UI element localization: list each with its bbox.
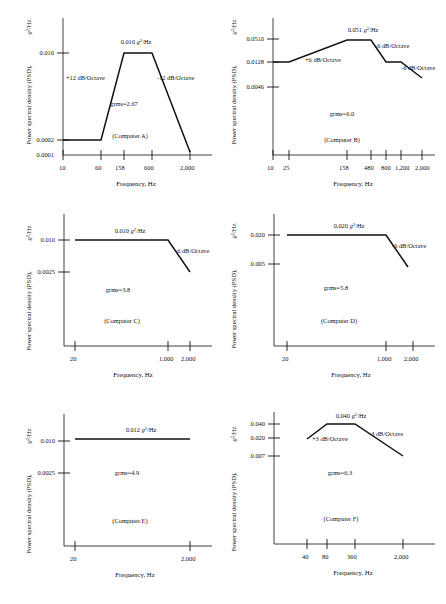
grms-label-e: grms=4.9 (115, 469, 139, 476)
x-ticks-a: 10 60 158 600 2,000 (59, 150, 194, 171)
svg-text:Power spectral density (PSD),: Power spectral density (PSD), (25, 474, 33, 554)
svg-text:60: 60 (95, 164, 101, 171)
svg-text:20: 20 (282, 355, 288, 362)
svg-text:g2/Hz: g2/Hz (230, 426, 237, 441)
svg-text:1,000: 1,000 (159, 355, 173, 362)
svg-text:0.020: 0.020 (251, 434, 265, 441)
level-label-f: 0.040 g2/Hz (336, 412, 367, 419)
svg-text:25: 25 (283, 164, 289, 171)
y-ticks-d: 0.020 0.005 (251, 231, 280, 267)
y-axis-title-b: Power spectral density (PSD), g2/Hz (230, 19, 238, 144)
y-axis-title-e: Power spectral density (PSD), g2/Hz (25, 428, 33, 553)
svg-text:158: 158 (339, 164, 349, 171)
svg-text:0.010: 0.010 (41, 236, 55, 243)
svg-text:0.0002: 0.0002 (36, 136, 54, 143)
grms-label-c: grms=3.8 (106, 286, 130, 293)
svg-text:0.005: 0.005 (251, 260, 265, 267)
svg-text:0.0128: 0.0128 (246, 58, 264, 65)
svg-text:2,000: 2,000 (181, 555, 195, 562)
svg-text:1,000: 1,000 (377, 355, 391, 362)
y-axis-title-d: Power spectral density (PSD), g2/Hz (230, 223, 238, 348)
svg-text:0.0025: 0.0025 (37, 469, 55, 476)
svg-text:10: 10 (59, 164, 65, 171)
psd-curve-d (287, 235, 408, 267)
svg-text:2,000: 2,000 (180, 164, 194, 171)
svg-text:Power spectral density (PSD),: Power spectral density (PSD), (230, 472, 238, 552)
x-ticks-f: 40 80 360 2,000 (302, 539, 408, 560)
svg-text:g2/Hz: g2/Hz (230, 223, 237, 238)
grms-label-b: grms=6.0 (330, 110, 354, 117)
y-axis-title-a: Power spectral density (PSD), g2/Hz (25, 19, 33, 144)
svg-text:480: 480 (364, 164, 374, 171)
level-label-b: 0.051 g2/Hz (348, 26, 379, 33)
grms-label-f: grms=6.3 (328, 469, 352, 476)
slope-fall-label-a: -12 dB/Octave (157, 74, 195, 81)
svg-text:10: 10 (267, 164, 273, 171)
figure-grid: Power spectral density (PSD), g2/Hz 0.01… (0, 0, 446, 604)
svg-text:0.020: 0.020 (251, 231, 265, 238)
svg-text:20: 20 (70, 355, 76, 362)
svg-text:Power spectral density (PSD),: Power spectral density (PSD), (230, 65, 238, 145)
svg-text:Power spectral density (PSD),: Power spectral density (PSD), (25, 271, 33, 351)
y-ticks-f: 0.040 0.020 0.007 (251, 420, 280, 459)
x-ticks-e: 20 2,000 (70, 541, 195, 562)
y-ticks-b: 0.0510 0.0128 0.0046 (246, 35, 279, 90)
svg-text:360: 360 (347, 553, 357, 560)
svg-text:158: 158 (115, 164, 125, 171)
psd-curve-c (75, 240, 190, 272)
svg-text:0.0510: 0.0510 (246, 35, 264, 42)
slope-rise-label-a: +12 dB/Octave (66, 74, 105, 81)
svg-text:Power spectral density (PSD),: Power spectral density (PSD), (25, 65, 33, 145)
x-axis-title-a: Frequency, Hz (116, 180, 156, 187)
svg-text:Power spectral density (PSD),: Power spectral density (PSD), (230, 269, 238, 349)
level-label-d: 0.020 g2/Hz (334, 222, 365, 229)
caption-e: (Computer E) (112, 517, 147, 525)
svg-text:0.0046: 0.0046 (246, 83, 264, 90)
level-label-c: 0.010 g2/Hz (115, 227, 146, 234)
svg-text:2,000: 2,000 (181, 355, 195, 362)
y-ticks-c: 0.010 0.0025 (37, 236, 70, 275)
chart-panel-computer-a: Power spectral density (PSD), g2/Hz 0.01… (0, 0, 223, 201)
chart-panel-computer-f: Power spectral density (PSD), g2/Hz 0.04… (223, 402, 446, 604)
svg-text:2,000: 2,000 (415, 164, 429, 171)
x-axis-title-c: Frequency, Hz (113, 371, 153, 378)
x-axis-title-e: Frequency, Hz (115, 571, 155, 578)
y-axis-title-f: Power spectral density (PSD), g2/Hz (230, 426, 238, 551)
grms-label-a: grms=2.67 (110, 100, 138, 107)
caption-a: (Computer A) (112, 132, 148, 140)
svg-text:0.010: 0.010 (41, 437, 55, 444)
slope-fall-label-c: -6 dB/Octave (175, 247, 209, 254)
caption-d: (Computer D) (321, 317, 357, 325)
x-axis-title-f: Frequency, Hz (333, 569, 373, 576)
chart-panel-computer-e: Power spectral density (PSD), g2/Hz 0.01… (0, 402, 223, 604)
svg-text:0.007: 0.007 (251, 452, 266, 459)
svg-text:2,000: 2,000 (404, 355, 418, 362)
slope-fall-label-b: -6 dB/Octave (375, 42, 409, 49)
svg-text:g2/Hz: g2/Hz (25, 428, 32, 443)
svg-text:20: 20 (70, 555, 76, 562)
x-ticks-c: 20 1,000 2,000 (70, 341, 195, 362)
x-axis-title-b: Frequency, Hz (333, 180, 373, 187)
svg-text:g2/Hz: g2/Hz (230, 19, 237, 34)
y-ticks-e: 0.010 0.0025 (37, 437, 70, 476)
slope-rise-label-f: +3 dB/Octave (312, 435, 348, 442)
caption-c: (Computer C) (104, 317, 140, 325)
svg-text:2,000: 2,000 (394, 553, 408, 560)
grms-label-d: grms=5.8 (324, 284, 348, 291)
svg-text:0.010: 0.010 (40, 49, 54, 56)
chart-panel-computer-c: Power spectral density (PSD), g2/Hz 0.01… (0, 201, 223, 402)
y-ticks-a: 0.010 0.0002 0.0001 (36, 49, 69, 158)
level-label-e: 0.012 g2/Hz (126, 426, 157, 433)
svg-text:600: 600 (144, 164, 154, 171)
x-ticks-d: 20 1,000 2,000 (282, 341, 418, 362)
slope-fall2-label-b: -6 dB/Octave (401, 64, 435, 71)
y-axis-title-c: Power spectral density (PSD), g2/Hz (25, 225, 33, 350)
svg-text:0.0025: 0.0025 (37, 268, 55, 275)
x-ticks-b: 10 25 158 480 800 1,200 2,000 (267, 150, 429, 171)
svg-text:800: 800 (381, 164, 391, 171)
svg-text:0.0001: 0.0001 (36, 151, 54, 158)
slope-rise-label-b: +6 dB/Octave (305, 56, 341, 63)
svg-text:g2/Hz: g2/Hz (25, 225, 32, 240)
x-axis-title-d: Frequency, Hz (331, 371, 371, 378)
level-label-a: 0.010 g2/Hz (121, 38, 152, 45)
